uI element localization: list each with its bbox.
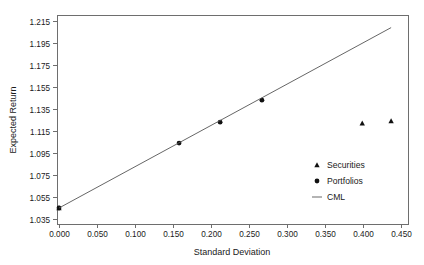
x-axis-title: Standard Deviation	[194, 247, 271, 257]
y-tick-label-4: 1.115	[30, 128, 50, 137]
x-tick-label-6: 0.300	[277, 230, 298, 239]
y-tick-label-7: 1.175	[30, 62, 51, 71]
y-axis-title: Expected Return	[8, 86, 18, 153]
legend-item-securities[interactable]: Securities	[314, 160, 364, 170]
x-tick-label-0: 0.000	[49, 230, 70, 239]
legend-label-2: CML	[327, 192, 345, 202]
x-tick-label-4: 0.200	[201, 230, 222, 239]
y-tick-label-8: 1.195	[30, 40, 51, 49]
x-axis-tick-labels: 0.0000.0500.1000.1500.2000.2500.3000.350…	[49, 230, 412, 239]
y-axis-tick-labels: 1.0351.0551.0751.0951.1151.1351.1551.175…	[30, 18, 51, 225]
x-tick-label-2: 0.100	[125, 230, 146, 239]
x-tick-label-8: 0.400	[353, 230, 374, 239]
y-tick-label-3: 1.095	[30, 150, 51, 159]
y-tick-label-0: 1.035	[30, 216, 51, 225]
x-tick-label-7: 0.350	[315, 230, 336, 239]
series-portfolios	[57, 98, 265, 211]
x-tick-label-5: 0.250	[239, 230, 260, 239]
legend-item-cml[interactable]: CML	[312, 192, 345, 202]
legend-label-1: Portfolios	[327, 176, 363, 186]
legend-label-0: Securities	[327, 160, 365, 170]
y-tick-label-1: 1.055	[30, 194, 51, 203]
legend-marker-triangle	[314, 162, 319, 167]
x-tick-label-1: 0.050	[87, 230, 108, 239]
y-tick-label-2: 1.075	[30, 172, 51, 181]
y-tick-label-6: 1.155	[30, 84, 51, 93]
point-securities-2	[388, 118, 393, 123]
x-tick-label-9: 0.450	[391, 230, 412, 239]
legend-marker-circle	[315, 179, 320, 184]
scatter-plot: 0.0000.0500.1000.1500.2000.2500.3000.350…	[0, 0, 424, 265]
x-tick-label-3: 0.150	[163, 230, 184, 239]
y-tick-label-9: 1.215	[30, 18, 51, 27]
legend-item-portfolios[interactable]: Portfolios	[315, 176, 363, 186]
y-tick-label-5: 1.135	[30, 106, 51, 115]
y-axis-ticks	[53, 22, 57, 220]
chart-legend: SecuritiesPortfoliosCML	[312, 160, 365, 202]
point-securities-1	[360, 121, 365, 126]
chart-container: 0.0000.0500.1000.1500.2000.2500.3000.350…	[0, 0, 424, 265]
